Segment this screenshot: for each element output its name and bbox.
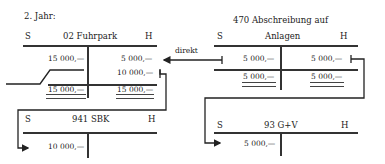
opening-entry-line: [6, 70, 84, 84]
connector-lines: [0, 0, 385, 164]
arrow-fuhrpark-to-sbk: [18, 69, 166, 148]
arrow-abschreibung-to-guv: [205, 59, 364, 143]
